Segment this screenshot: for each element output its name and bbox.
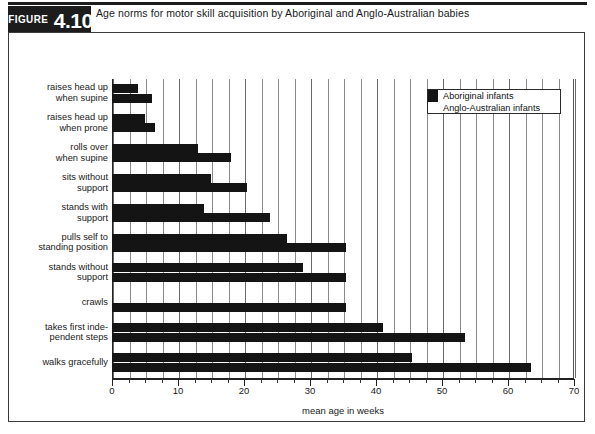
category-label: stands withsupport	[15, 202, 108, 223]
category-label: raises head upwhen prone	[15, 112, 108, 133]
x-tick-minor	[195, 379, 196, 383]
category-label: rolls overwhen supine	[15, 142, 108, 163]
x-tick-minor	[426, 379, 427, 383]
x-tick-label: 30	[305, 385, 316, 396]
bar-aboriginal	[112, 144, 198, 153]
bar-anglo-australian	[112, 183, 247, 192]
category-label: crawls	[15, 297, 108, 308]
chart-legend: Aboriginal infants Anglo-Australian infa…	[437, 89, 561, 114]
x-axis-label: mean age in weeks	[112, 405, 574, 416]
bar-anglo-australian	[112, 303, 346, 312]
x-tick-minor	[393, 379, 394, 383]
x-tick-minor	[294, 379, 295, 383]
category-axis-labels: raises head upwhen supineraises head upw…	[15, 79, 108, 378]
category-label-line: raises head up	[15, 112, 108, 123]
bar-aboriginal	[112, 234, 287, 243]
category-label-line: when supine	[15, 153, 108, 164]
category-label-line: when supine	[15, 93, 108, 104]
category-label: takes first inde-pendent steps	[15, 322, 108, 343]
chart-frame: raises head upwhen supineraises head upw…	[8, 32, 585, 422]
bar-anglo-australian	[112, 123, 155, 132]
legend-item-anglo: Anglo-Australian infants	[438, 102, 562, 114]
x-tick-label: 70	[569, 385, 580, 396]
category-label-line: support	[15, 183, 108, 194]
category-label-line: takes first inde-	[15, 322, 108, 333]
category-label-line: pulls self to	[15, 232, 108, 243]
x-tick-minor	[327, 379, 328, 383]
bar-anglo-australian	[112, 333, 465, 342]
x-tick-minor	[162, 379, 163, 383]
category-label-line: stands without	[15, 262, 108, 273]
x-tick-label: 20	[239, 385, 250, 396]
bar-anglo-australian	[112, 94, 152, 103]
legend-swatch-column	[427, 89, 438, 114]
category-label-line: when prone	[15, 123, 108, 134]
category-label: raises head upwhen supine	[15, 82, 108, 103]
bar-anglo-australian	[112, 243, 346, 252]
category-label-line: support	[15, 272, 108, 283]
x-tick-minor	[525, 379, 526, 383]
figure-number-badge: FIGURE 4.10	[8, 6, 91, 32]
category-label-line: pendent steps	[15, 332, 108, 343]
bar-aboriginal	[112, 84, 138, 93]
category-label: walks gracefully	[15, 357, 108, 368]
bar-aboriginal	[112, 263, 303, 272]
x-tick-label: 10	[173, 385, 184, 396]
category-label-line: walks gracefully	[15, 357, 108, 368]
figure-word: FIGURE	[9, 13, 49, 25]
x-tick-minor	[360, 379, 361, 383]
bar-aboriginal	[112, 323, 383, 332]
x-tick-minor	[541, 379, 542, 383]
x-tick-minor	[459, 379, 460, 383]
category-label-line: raises head up	[15, 82, 108, 93]
x-tick-label: 40	[371, 385, 382, 396]
x-tick-label: 0	[109, 385, 114, 396]
x-tick-label: 60	[503, 385, 514, 396]
x-tick-minor	[211, 379, 212, 383]
bar-anglo-australian	[112, 153, 231, 162]
legend-label-aboriginal: Aboriginal infants	[443, 91, 513, 101]
legend-swatch-aboriginal	[428, 90, 438, 102]
x-tick-minor	[343, 379, 344, 383]
bars-layer	[112, 79, 574, 378]
figure-header: FIGURE 4.10 Age norms for motor skill ac…	[8, 6, 587, 30]
figure-number: 4.10	[54, 11, 91, 30]
category-label-line: sits without	[15, 172, 108, 183]
x-tick-minor	[129, 379, 130, 383]
category-label-line: standing position	[15, 242, 108, 253]
x-tick-minor	[277, 379, 278, 383]
x-tick-minor	[409, 379, 410, 383]
category-label: stands withoutsupport	[15, 262, 108, 283]
x-tick-minor	[261, 379, 262, 383]
bar-aboriginal	[112, 174, 211, 183]
gridline	[575, 79, 576, 378]
category-label: sits withoutsupport	[15, 172, 108, 193]
header-rule	[8, 2, 587, 5]
x-tick-minor	[228, 379, 229, 383]
legend-item-aboriginal: Aboriginal infants	[438, 90, 562, 102]
legend-label-anglo: Anglo-Australian infants	[443, 103, 540, 113]
bar-aboriginal	[112, 204, 204, 213]
x-axis-tick-labels: 010203040506070	[112, 385, 574, 399]
x-tick-minor	[475, 379, 476, 383]
category-label-line: rolls over	[15, 142, 108, 153]
x-tick-minor	[145, 379, 146, 383]
bar-anglo-australian	[112, 363, 531, 372]
category-label: pulls self tostanding position	[15, 232, 108, 253]
bar-anglo-australian	[112, 213, 270, 222]
legend-swatch-anglo	[428, 102, 438, 114]
x-tick-label: 50	[437, 385, 448, 396]
figure-title: Age norms for motor skill acquisition by…	[96, 7, 469, 19]
x-tick-minor	[558, 379, 559, 383]
category-label-line: crawls	[15, 297, 108, 308]
bar-anglo-australian	[112, 273, 346, 282]
category-label-line: stands with	[15, 202, 108, 213]
bar-aboriginal	[112, 353, 412, 362]
category-label-line: support	[15, 213, 108, 224]
x-tick-minor	[492, 379, 493, 383]
bar-aboriginal	[112, 114, 145, 123]
